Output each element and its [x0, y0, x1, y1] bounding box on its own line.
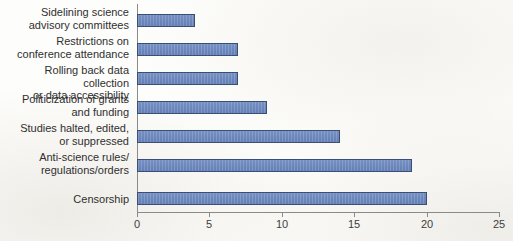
x-axis-tick-label-20: 20	[421, 218, 433, 230]
category-label-sidelining-science-advisory-committees: Sidelining science advisory committees	[0, 6, 129, 31]
category-label-studies-halted-edited-or-suppressed: Studies halted, edited, or suppressed	[0, 122, 129, 147]
x-axis-tick-label-25: 25	[493, 218, 505, 230]
x-axis-tick-25	[499, 212, 500, 217]
plot-area: 0 5 10 15 20 25	[137, 4, 499, 212]
category-axis-labels: Sidelining science advisory committees R…	[0, 0, 133, 241]
bar-sidelining-science-advisory-committees	[137, 14, 195, 27]
x-axis-tick-label-5: 5	[206, 218, 212, 230]
x-axis-tick-20	[427, 212, 428, 217]
bar-censorship	[137, 192, 427, 205]
x-axis-tick-label-15: 15	[348, 218, 360, 230]
bar-chart-figure: Sidelining science advisory committees R…	[0, 0, 513, 241]
category-label-censorship: Censorship	[0, 193, 129, 206]
x-axis-tick-5	[209, 212, 210, 217]
x-axis-tick-15	[354, 212, 355, 217]
x-axis-tick-label-10: 10	[276, 218, 288, 230]
x-axis-tick-10	[282, 212, 283, 217]
category-label-anti-science-rules-regulations-orders: Anti-science rules/ regulations/orders	[0, 151, 129, 176]
x-axis-tick-label-0: 0	[134, 218, 140, 230]
bar-restrictions-on-conference-attendance	[137, 43, 238, 56]
bar-anti-science-rules-regulations-orders	[137, 159, 412, 172]
bar-studies-halted-edited-or-suppressed	[137, 130, 340, 143]
bar-politicization-of-grants-and-funding	[137, 101, 267, 114]
x-axis-tick-0	[137, 212, 138, 217]
category-label-restrictions-on-conference-attendance: Restrictions on conference attendance	[0, 35, 129, 60]
category-label-politicization-of-grants-and-funding: Politicization of grants and funding	[0, 93, 129, 118]
x-axis-line	[137, 212, 499, 213]
bar-rolling-back-data-collection	[137, 72, 238, 85]
